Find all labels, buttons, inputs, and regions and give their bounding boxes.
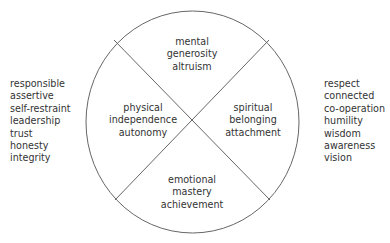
right-list-item: awareness [324, 140, 385, 152]
right-list-item: co-operation [324, 103, 385, 115]
left-list-item: leadership [10, 115, 71, 127]
right-list-item: connected [324, 90, 385, 102]
quadrant-right: spiritual belonging attachment [225, 102, 281, 139]
right-list-item: humility [324, 115, 385, 127]
quadrant-right-line-2: belonging [225, 114, 281, 126]
left-list-item: self-restraint [10, 103, 71, 115]
left-list-item: integrity [10, 152, 71, 164]
quadrant-right-line-1: spiritual [225, 102, 281, 114]
quadrant-left-line-3: autonomy [109, 127, 177, 139]
left-list-item: responsible [10, 78, 71, 90]
quadrant-left: physical independence autonomy [109, 102, 177, 139]
quadrant-bottom: emotional mastery achievement [161, 174, 223, 211]
quadrant-bottom-line-3: achievement [161, 199, 223, 211]
left-list-item: trust [10, 128, 71, 140]
quadrant-top: mental generosity altruism [167, 36, 218, 73]
right-list-item: wisdom [324, 128, 385, 140]
left-values-list: responsible assertive self-restraint lea… [10, 78, 71, 165]
quadrant-top-line-1: mental [167, 36, 218, 48]
quadrant-bottom-line-1: emotional [161, 174, 223, 186]
quadrant-left-line-1: physical [109, 102, 177, 114]
right-list-item: respect [324, 78, 385, 90]
quadrant-left-line-2: independence [109, 114, 177, 126]
right-values-list: respect connected co-operation humility … [324, 78, 385, 165]
quadrant-right-line-3: attachment [225, 127, 281, 139]
left-list-item: assertive [10, 90, 71, 102]
right-list-item: vision [324, 152, 385, 164]
quadrant-top-line-3: altruism [167, 61, 218, 73]
left-list-item: honesty [10, 140, 71, 152]
quadrant-bottom-line-2: mastery [161, 186, 223, 198]
quadrant-top-line-2: generosity [167, 48, 218, 60]
